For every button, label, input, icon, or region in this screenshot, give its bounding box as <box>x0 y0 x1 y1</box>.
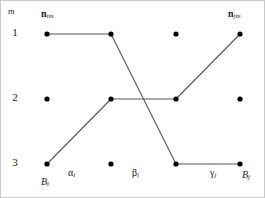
lattice-path-figure: m 1 2 3 nim njm Bi αi βi γj Bj <box>0 0 265 198</box>
label-end-bj: Bj <box>242 170 250 181</box>
lattice-node <box>44 31 49 36</box>
row-label-1: 1 <box>8 27 22 38</box>
lattice-node <box>173 31 178 36</box>
label-alpha-i: αi <box>68 168 75 179</box>
lattice-node <box>237 31 242 36</box>
occupation-label-jm: njm <box>228 9 241 20</box>
lattice-node <box>237 161 242 166</box>
row-label-2: 2 <box>8 92 22 103</box>
label-alpha-subscript: i <box>73 171 75 179</box>
lattice-node <box>108 161 113 166</box>
label-beta-subscript: i <box>137 171 139 179</box>
lattice-node <box>44 96 49 101</box>
lattice-node <box>173 161 178 166</box>
lattice-node <box>108 96 113 101</box>
ascending-path-polyline <box>47 34 240 164</box>
lattice-node <box>237 96 242 101</box>
label-start-subscript: i <box>47 180 49 188</box>
label-start-bi: Bi <box>41 177 49 188</box>
row-label-3: 3 <box>8 157 22 168</box>
lattice-node <box>108 31 113 36</box>
label-beta-i: βi <box>132 168 139 179</box>
label-end-subscript: j <box>248 173 250 181</box>
axis-label-m: m <box>8 7 15 16</box>
lattice-node <box>173 96 178 101</box>
occupation-label-im: nim <box>41 9 54 20</box>
label-gamma-j: γj <box>210 168 216 179</box>
lattice-node <box>44 161 49 166</box>
label-gamma-subscript: j <box>214 171 216 179</box>
occupation-subscript-im: im <box>47 12 54 20</box>
occupation-subscript-jm: jm <box>234 12 241 20</box>
